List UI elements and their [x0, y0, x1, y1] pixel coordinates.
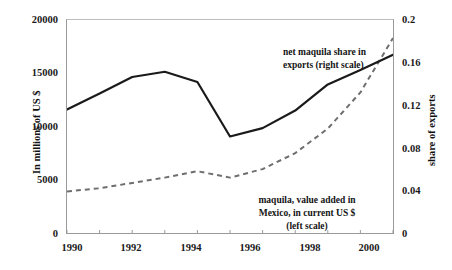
annotation-lower-line-2: Mexico, in current US $ — [258, 207, 355, 220]
y-axis-left-tick-0: 0 — [10, 229, 58, 240]
y-axis-right-tick-0-16: 0.16 — [402, 58, 420, 69]
annotation-upper-line-1: net maquila share in — [283, 46, 366, 59]
y-axis-right-title: share of exports — [427, 70, 438, 190]
y-axis-right-tick-0-12: 0.12 — [402, 101, 420, 112]
x-axis-tick-1996: 1996 — [240, 243, 261, 254]
annotation-lower-line-3: (left scale) — [258, 220, 355, 233]
x-axis-tick-1990: 1990 — [62, 243, 83, 254]
y-axis-right-tick-0-04: 0.04 — [402, 186, 420, 197]
y-axis-right-tick-0-08: 0.08 — [402, 144, 420, 155]
annotation-upper-line-2: exports (right scale) — [283, 59, 366, 72]
annotation-maquila-value-added: maquila, value added in Mexico, in curre… — [258, 194, 355, 233]
y-axis-left-title: In millions of US $ — [32, 62, 43, 202]
y-axis-right-tick-0: 0 — [402, 229, 407, 240]
x-axis-tick-2000: 2000 — [359, 243, 380, 254]
x-axis-tick-1998: 1998 — [300, 243, 321, 254]
y-axis-left-tick-20000: 20000 — [10, 15, 58, 26]
annotation-net-maquila-share: net maquila share in exports (right scal… — [283, 46, 366, 72]
annotation-lower-line-1: maquila, value added in — [258, 194, 355, 207]
plot-area: net maquila share in exports (right scal… — [66, 19, 394, 234]
chart-figure: 20000 15000 10000 5000 0 0.2 0.16 0.12 0… — [0, 0, 452, 270]
y-axis-right-tick-0-2: 0.2 — [402, 15, 415, 26]
x-axis-tick-1992: 1992 — [121, 243, 142, 254]
x-axis-tick-1994: 1994 — [181, 243, 202, 254]
